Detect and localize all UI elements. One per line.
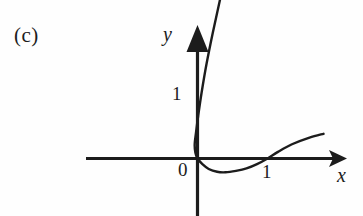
- x-axis-tick-label-1: 1: [262, 162, 272, 181]
- y-axis-tick-label-1: 1: [172, 84, 182, 103]
- y-axis-label: y: [163, 24, 172, 44]
- graph-canvas: [0, 0, 363, 216]
- figure-container: (c) y x 1 0 1: [0, 0, 363, 216]
- plotted-curve: [195, 0, 324, 172]
- x-axis-label: x: [337, 165, 346, 185]
- origin-label: 0: [178, 160, 188, 179]
- arrow-up-icon: [187, 25, 209, 52]
